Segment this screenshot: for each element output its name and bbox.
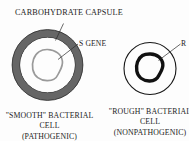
rough-caption-line-1: "ROUGH" BACTERIAL xyxy=(108,108,189,116)
s-gene-label: S GENE xyxy=(79,40,106,48)
r-gene-label: R xyxy=(181,40,186,48)
cytoplasm xyxy=(20,38,74,92)
bacterial-cell-diagram: CARBOHYDRATE CAPSULE S GENE R "SMOOTH" B… xyxy=(0,0,189,141)
rough-bacterial-cell-figure xyxy=(124,43,181,95)
smooth-bacterial-cell-figure xyxy=(12,24,83,101)
rough-caption-line-3: (NONPATHOGENIC) xyxy=(108,129,189,137)
rough-cell-wall xyxy=(124,43,176,95)
rough-caption-line-2: CELL xyxy=(108,118,189,126)
rough-bacterial-cell-caption: "ROUGH" BACTERIAL CELL (NONPATHOGENIC) xyxy=(108,108,189,139)
smooth-caption-line-1: "SMOOTH" BACTERIAL xyxy=(0,112,99,120)
smooth-caption-line-3: (PATHOGENIC) xyxy=(0,133,99,141)
smooth-bacterial-cell-caption: "SMOOTH" BACTERIAL CELL (PATHOGENIC) xyxy=(0,112,99,141)
smooth-caption-line-2: CELL xyxy=(0,122,99,130)
carbohydrate-capsule-label: CARBOHYDRATE CAPSULE xyxy=(15,9,123,17)
